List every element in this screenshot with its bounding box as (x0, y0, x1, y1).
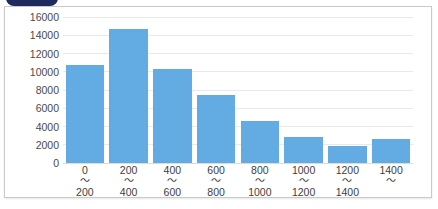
y-axis-tick-label: 6000 (36, 103, 59, 114)
bar-slot (326, 17, 370, 163)
corner-tab-badge (6, 0, 58, 6)
x-label-range-separator: 〜 (369, 176, 413, 187)
y-axis-tick-label: 14000 (30, 30, 59, 41)
bar-slot (151, 17, 195, 163)
histogram-bar[interactable] (109, 29, 148, 163)
x-axis: 0〜200200〜400400〜600600〜800800〜10001000〜1… (63, 165, 413, 199)
x-axis-tick-label: 800〜1000 (238, 165, 282, 199)
bar-slot (107, 17, 151, 163)
y-axis: 0200040006000800010000120001400016000 (15, 17, 59, 163)
x-label-upper-bound: 600 (151, 187, 195, 198)
x-label-upper-bound: 1200 (282, 187, 326, 198)
bar-slot (282, 17, 326, 163)
histogram-bar[interactable] (197, 95, 236, 163)
y-axis-tick-label: 0 (53, 158, 59, 169)
bar-slot (238, 17, 282, 163)
x-axis-tick-label: 400〜600 (151, 165, 195, 199)
x-axis-tick-label: 1000〜1200 (282, 165, 326, 199)
histogram-bar[interactable] (328, 146, 367, 163)
bar-slot (63, 17, 107, 163)
y-axis-tick-label: 12000 (30, 48, 59, 59)
histogram-chart: 0200040006000800010000120001400016000 0〜… (5, 7, 431, 197)
bar-slot (194, 17, 238, 163)
bar-slot (369, 17, 413, 163)
plot-area (63, 17, 413, 163)
bar-series (63, 17, 413, 163)
chart-card: 0200040006000800010000120001400016000 0〜… (4, 6, 432, 198)
x-axis-tick-label: 1400〜 (369, 165, 413, 199)
y-axis-tick-label: 2000 (36, 140, 59, 151)
histogram-bar[interactable] (241, 121, 280, 163)
x-axis-tick-label: 600〜800 (194, 165, 238, 199)
x-label-upper-bound: 200 (63, 187, 107, 198)
y-axis-tick-label: 10000 (30, 67, 59, 78)
x-axis-tick-label: 1200〜1400 (326, 165, 370, 199)
histogram-bar[interactable] (153, 69, 192, 163)
x-label-upper-bound: 1000 (238, 187, 282, 198)
x-axis-tick-label: 0〜200 (63, 165, 107, 199)
x-label-upper-bound: 800 (194, 187, 238, 198)
histogram-bar[interactable] (372, 139, 411, 163)
x-label-upper-bound: 400 (107, 187, 151, 198)
histogram-bar[interactable] (284, 137, 323, 163)
y-axis-tick-label: 4000 (36, 121, 59, 132)
y-axis-tick-label: 8000 (36, 85, 59, 96)
x-label-upper-bound: 1400 (326, 187, 370, 198)
y-axis-tick-label: 16000 (30, 12, 59, 23)
x-axis-tick-label: 200〜400 (107, 165, 151, 199)
histogram-bar[interactable] (66, 65, 105, 163)
